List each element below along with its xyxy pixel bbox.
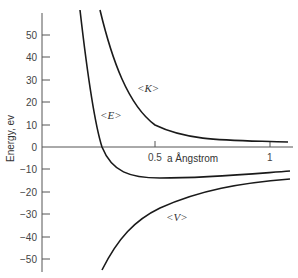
curve-v: [102, 179, 290, 270]
svg-text:40: 40: [26, 52, 38, 63]
svg-text:−10: −10: [20, 164, 37, 175]
svg-text:−20: −20: [20, 187, 37, 198]
curve-k: [100, 10, 288, 142]
svg-text:20: 20: [26, 97, 38, 108]
curve-label-v: <V>: [166, 211, 188, 223]
svg-text:50: 50: [26, 30, 38, 41]
svg-text:−40: −40: [20, 232, 37, 243]
x-axis-title: a Ångstrom: [167, 152, 218, 164]
svg-text:0: 0: [31, 142, 37, 153]
x-tick-label-1: 1: [267, 152, 273, 163]
svg-text:−30: −30: [20, 209, 37, 220]
svg-text:30: 30: [26, 75, 38, 86]
curve-label-e: <E>: [100, 109, 122, 121]
svg-text:−50: −50: [20, 254, 37, 265]
x-ticks: [155, 141, 270, 147]
y-axis-title: Energy, ev: [5, 115, 16, 162]
svg-text:10: 10: [26, 120, 38, 131]
y-tick-labels: 50 40 30 20 10 0 −10 −20 −30 −40 −50: [20, 30, 37, 265]
energy-chart: 50 40 30 20 10 0 −10 −20 −30 −40 −50 0.5…: [0, 0, 298, 278]
x-tick-label-0-5: 0.5: [148, 152, 162, 163]
curve-label-k: <K>: [137, 82, 159, 94]
